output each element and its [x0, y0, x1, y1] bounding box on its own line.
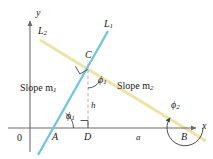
- angle-label-phi1-C: ϕ1: [98, 75, 107, 86]
- right-angle-marker-D: [81, 121, 89, 129]
- slope-label-m2: Slope m2: [117, 81, 154, 92]
- slope-label-m2-subscript: 2: [150, 84, 154, 92]
- origin-label: 0: [17, 133, 22, 143]
- point-label-D: D: [84, 132, 91, 142]
- angle-label-phi2-B-subscript: 2: [176, 103, 180, 111]
- segment-label-h: h: [91, 101, 96, 110]
- slope-label-m1-text: Slope m: [20, 82, 53, 93]
- point-label-A: A: [52, 132, 58, 142]
- angle-label-phi1-A-subscript: 1: [71, 114, 75, 122]
- point-label-C: C: [85, 50, 92, 60]
- point-label-B: B: [181, 132, 187, 142]
- line-label-L1: L1: [104, 19, 113, 30]
- slope-label-m1: Slope m1: [20, 83, 57, 94]
- line-label-L1-subscript: 1: [110, 22, 114, 30]
- line-label-L2: L2: [38, 26, 47, 37]
- slope-label-m1-subscript: 1: [53, 86, 57, 94]
- y-axis-label: y: [36, 8, 40, 18]
- slope-label-m2-text: Slope m: [117, 80, 150, 91]
- x-axis-label: x: [202, 121, 206, 131]
- angle-label-phi2-B: ϕ2: [171, 100, 180, 111]
- angle-label-phi1-C-subscript: 1: [103, 78, 107, 86]
- segment-label-a: a: [136, 133, 141, 142]
- geometry-figure: y x 0 L2 L1 Slope m1 Slope m2 C A D B h …: [0, 0, 213, 159]
- angle-label-phi1-A: ϕ1: [66, 111, 75, 122]
- line-label-L2-subscript: 2: [44, 29, 48, 37]
